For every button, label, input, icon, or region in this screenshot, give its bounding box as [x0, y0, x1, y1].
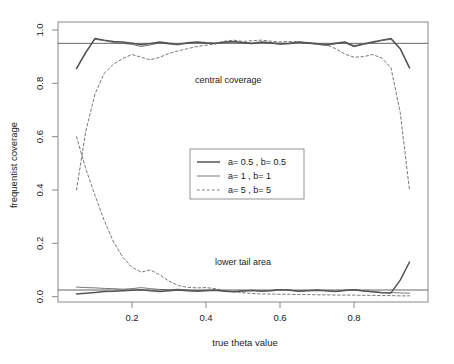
- x-tick-label: 0.4: [199, 312, 212, 323]
- y-tick-label: 0.2: [34, 237, 45, 250]
- plot-annotation: lower tail area: [215, 257, 271, 267]
- y-tick-label: 0.6: [34, 130, 45, 143]
- chart-legend: a= 0.5 , b= 0.5a= 1 , b= 1a= 5 , b= 5: [190, 149, 304, 199]
- y-axis-title: frequentist coverage: [8, 122, 19, 208]
- y-tick-label: 0.0: [34, 290, 45, 303]
- coverage-line-chart: 0.00.20.40.60.81.00.20.40.60.8 central c…: [0, 0, 454, 364]
- x-tick-label: 0.6: [273, 312, 286, 323]
- x-axis-title: true theta value: [212, 337, 278, 348]
- x-tick-label: 0.2: [125, 312, 138, 323]
- legend-label: a= 0.5 , b= 0.5: [228, 157, 286, 167]
- x-tick-label: 0.8: [347, 312, 360, 323]
- y-tick-label: 0.4: [34, 183, 45, 196]
- legend-label: a= 1 , b= 1: [228, 171, 271, 181]
- y-tick-label: 0.8: [34, 77, 45, 90]
- y-tick-label: 1.0: [34, 23, 45, 36]
- chart-figure: 0.00.20.40.60.81.00.20.40.60.8 central c…: [0, 0, 454, 364]
- plot-annotation: central coverage: [195, 75, 262, 85]
- legend-label: a= 5 , b= 5: [228, 185, 271, 195]
